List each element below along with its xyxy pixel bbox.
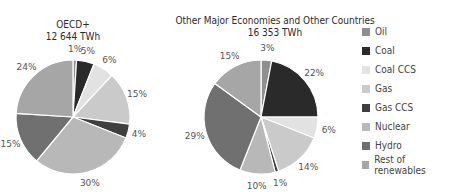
legend-label: Oil <box>375 26 387 37</box>
pie-slice-label: 14% <box>298 162 318 172</box>
pie-slice-label: 30% <box>80 178 100 188</box>
legend-label: Coal CCS <box>375 64 416 75</box>
legend-label: Rest of renewables <box>374 154 451 176</box>
legend-item: Oil <box>362 22 451 41</box>
legend-swatch <box>362 161 369 169</box>
legend-label: Gas CCS <box>375 102 413 113</box>
pie-slice-label: 15% <box>220 51 240 61</box>
pie-slice-label: 6% <box>102 55 117 65</box>
pie-slice-label: 29% <box>185 131 205 141</box>
legend-swatch <box>362 47 370 55</box>
legend-label: Coal <box>375 45 395 56</box>
legend-label: Nuclear <box>375 121 410 132</box>
legend: OilCoalCoal CCSGasGas CCSNuclearHydroRes… <box>362 22 451 174</box>
legend-item: Gas <box>362 79 451 98</box>
legend-item: Rest of renewables <box>362 155 451 174</box>
pie-slice-label: 1% <box>273 178 288 188</box>
pie-slice-label: 6% <box>322 125 337 135</box>
pie-slice-label: 22% <box>304 68 324 78</box>
legend-swatch <box>362 142 370 150</box>
pie-slice-label: 24% <box>16 62 36 72</box>
legend-swatch <box>362 123 370 131</box>
legend-item: Gas CCS <box>362 98 451 117</box>
legend-swatch <box>362 104 370 112</box>
pie-slice-label: 3% <box>260 43 275 53</box>
legend-label: Hydro <box>375 140 402 151</box>
pie-slice-label: 10% <box>247 181 267 191</box>
legend-label: Gas <box>375 83 392 94</box>
pie-slice-label: 4% <box>132 129 147 139</box>
pie-slice-label: 15% <box>1 139 21 149</box>
legend-swatch <box>362 66 370 74</box>
pie-chart-oecd: 1%5%6%15%4%30%15%24% <box>1 44 148 188</box>
legend-swatch <box>362 28 370 36</box>
legend-swatch <box>362 85 370 93</box>
legend-item: Coal <box>362 41 451 60</box>
pie-chart-other: 3%22%6%14%1%10%29%15% <box>185 43 337 191</box>
pie-slice-label: 15% <box>127 89 147 99</box>
pie-slice-label: 5% <box>81 46 96 56</box>
legend-item: Nuclear <box>362 117 451 136</box>
legend-item: Coal CCS <box>362 60 451 79</box>
legend-item: Hydro <box>362 136 451 155</box>
